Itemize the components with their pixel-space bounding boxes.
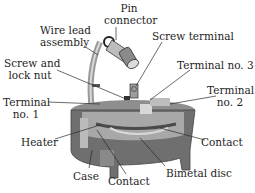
label-text: connector [104, 14, 154, 26]
label-text: Wire lead [40, 24, 88, 36]
label-text: Pin [104, 2, 154, 14]
label-bimetal-disc: Bimetal disc [166, 167, 232, 179]
label-contact-right: Contact [201, 136, 243, 148]
label-heater: Heater [21, 136, 58, 148]
label-contact-bottom: Contact [108, 175, 150, 187]
label-screw-terminal: Screw terminal [152, 30, 234, 42]
pin-connector [106, 40, 140, 70]
screw-terminal [130, 84, 138, 98]
label-wire-lead-assembly: Wire lead assembly [40, 24, 88, 48]
label-terminal-no-3: Terminal no. 3 [177, 59, 254, 71]
label-terminal-no-1: Terminal no. 1 [3, 96, 49, 120]
label-text: assembly [40, 36, 88, 48]
label-text: Terminal [207, 84, 253, 96]
label-case: Case [73, 170, 99, 182]
label-text: no. 2 [207, 96, 253, 108]
label-text: Terminal [3, 96, 49, 108]
label-terminal-no-2: Terminal no. 2 [207, 84, 253, 108]
label-text: no. 1 [3, 108, 49, 120]
label-screw-and-lock-nut: Screw and lock nut [4, 57, 56, 81]
label-pin-connector: Pin connector [104, 2, 154, 26]
label-text: Screw and [4, 57, 56, 69]
label-text: lock nut [4, 69, 56, 81]
